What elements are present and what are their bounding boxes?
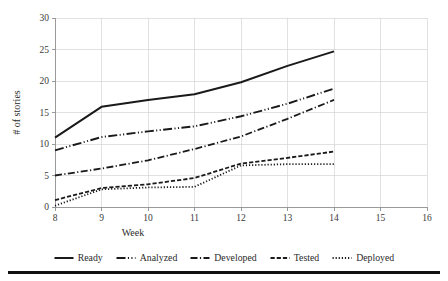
- y-tick-label: 10: [40, 139, 50, 149]
- legend-item-ready[interactable]: Ready: [54, 253, 103, 263]
- y-axis-tick-labels: 051015202530: [40, 13, 50, 212]
- y-axis-tick-marks: [52, 18, 56, 207]
- line-chart: 051015202530 8910111213141516 # of stori…: [0, 0, 448, 281]
- y-tick-label: 15: [40, 108, 50, 118]
- x-tick-label: 9: [99, 213, 104, 223]
- legend-swatch-deployed-icon: [332, 253, 352, 263]
- x-axis-title: Week: [122, 227, 145, 238]
- y-tick-label: 25: [40, 45, 50, 55]
- legend-label: Ready: [78, 253, 103, 263]
- legend-item-analyzed[interactable]: Analyzed: [116, 253, 178, 263]
- legend-item-tested[interactable]: Tested: [270, 253, 319, 263]
- chart-canvas: 051015202530 8910111213141516 # of stori…: [0, 0, 448, 281]
- legend-swatch-analyzed-icon: [116, 253, 136, 263]
- legend-swatch-tested-icon: [270, 253, 290, 263]
- x-axis-tick-marks: [55, 207, 427, 211]
- x-tick-label: 15: [376, 213, 386, 223]
- legend-label: Deployed: [356, 253, 394, 263]
- y-tick-label: 20: [40, 76, 50, 86]
- legend-swatch-developed-icon: [190, 253, 210, 263]
- x-axis-tick-labels: 8910111213141516: [53, 213, 432, 223]
- y-tick-label: 0: [44, 202, 49, 212]
- x-tick-label: 14: [329, 213, 339, 223]
- x-tick-label: 12: [236, 213, 246, 223]
- legend-label: Tested: [294, 253, 319, 263]
- chart-legend: ReadyAnalyzedDevelopedTestedDeployed: [0, 249, 448, 267]
- y-axis-title: # of stories: [11, 90, 22, 135]
- x-tick-label: 8: [53, 213, 58, 223]
- bottom-divider-rule: [8, 271, 440, 274]
- y-tick-label: 30: [40, 13, 50, 23]
- x-tick-label: 11: [190, 213, 199, 223]
- x-tick-label: 13: [283, 213, 293, 223]
- x-tick-label: 10: [143, 213, 153, 223]
- legend-label: Analyzed: [140, 253, 178, 263]
- legend-label: Developed: [214, 253, 256, 263]
- legend-item-deployed[interactable]: Deployed: [332, 253, 394, 263]
- x-tick-label: 16: [422, 213, 432, 223]
- legend-item-developed[interactable]: Developed: [190, 253, 256, 263]
- y-tick-label: 5: [44, 171, 49, 181]
- legend-swatch-ready-icon: [54, 253, 74, 263]
